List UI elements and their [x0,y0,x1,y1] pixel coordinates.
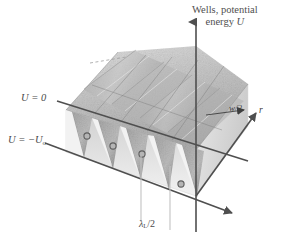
vertical-axis-title-line2: energy [206,16,234,27]
atom-marker [139,151,145,157]
vertical-axis-title: Wells, potential energy U [192,4,258,28]
radial-axis-label: r [259,105,263,116]
lattice-period-suffix: /2 [147,218,155,229]
atom-marker [178,181,184,187]
lattice-period-label: λL/2 [139,218,155,230]
atom-marker [110,143,116,149]
potential-well-3d-diagram [0,0,285,248]
lattice-slab [66,46,248,197]
figure-container: Wells, potential energy U U = 0 U = −Uo … [0,0,285,248]
u-zero-label: U = 0 [21,92,46,104]
u-minus-u0-label: U = −Uo [8,134,46,146]
vertical-axis-title-symbol: U [237,16,245,27]
radial-axis-label-text: r [259,105,263,115]
u-minus-u0-label-text: U = −U [8,134,43,145]
u-minus-u0-label-subscript: o [43,139,46,146]
vertical-axis-title-line1: Wells, potential [192,4,258,15]
u-zero-label-text: U = 0 [21,92,46,103]
width-half-label: w/2 [229,103,242,113]
width-half-label-text: w/2 [229,103,242,113]
atom-marker [84,133,90,139]
